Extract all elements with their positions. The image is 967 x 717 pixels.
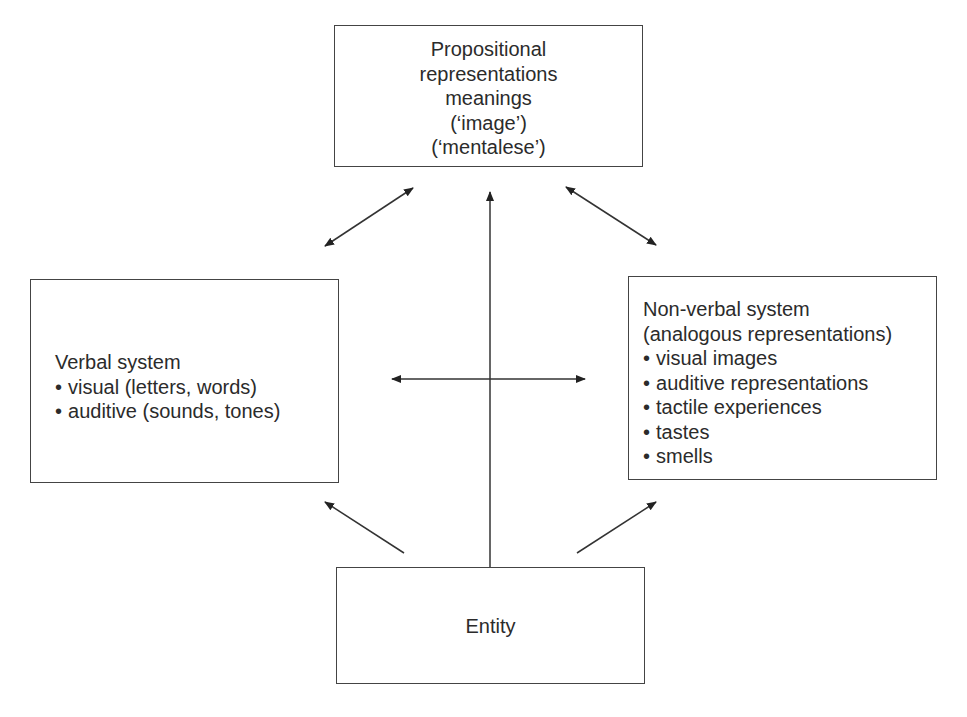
propositional-line-4: (‘image’) (335, 111, 642, 136)
entity-box: Entity (336, 567, 645, 684)
non-verbal-system-box: Non-verbal system (analogous representat… (628, 276, 937, 480)
verbal-system-box: Verbal system visual (letters, words) au… (30, 279, 339, 483)
propositional-line-5: (‘mentalese’) (335, 135, 642, 160)
arrow-entity-nonverbal (577, 502, 656, 553)
propositional-representations-box: Propositional representations meanings (… (334, 25, 643, 167)
entity-label: Entity (337, 614, 644, 639)
non-verbal-bullet-1: visual images (643, 346, 936, 371)
verbal-bullet-2: auditive (sounds, tones) (55, 399, 338, 424)
arrow-entity-verbal (325, 502, 404, 553)
non-verbal-bullet-4: tastes (643, 420, 936, 445)
non-verbal-system-title: Non-verbal system (643, 297, 936, 322)
propositional-line-3: meanings (335, 86, 642, 111)
arrow-verbal-propositional (325, 188, 413, 246)
propositional-line-1: Propositional (335, 37, 642, 62)
propositional-line-2: representations (335, 62, 642, 87)
non-verbal-bullet-5: smells (643, 444, 936, 469)
non-verbal-bullet-2: auditive representations (643, 371, 936, 396)
non-verbal-bullet-3: tactile experiences (643, 395, 936, 420)
verbal-system-title: Verbal system (55, 350, 338, 375)
non-verbal-system-subtitle: (analogous representations) (643, 322, 936, 347)
arrow-nonverbal-propositional (566, 187, 656, 245)
verbal-bullet-1: visual (letters, words) (55, 375, 338, 400)
